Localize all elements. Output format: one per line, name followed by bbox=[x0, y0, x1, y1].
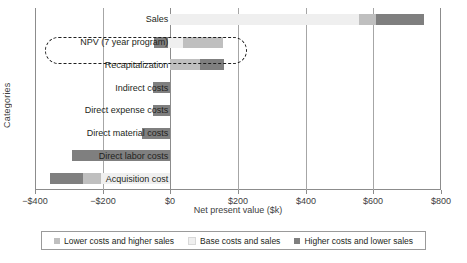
category-label: Sales bbox=[146, 14, 169, 24]
x-axis-title: Net present value ($k) bbox=[35, 205, 441, 215]
bar-segment[interactable] bbox=[183, 37, 224, 48]
bar-row[interactable] bbox=[35, 14, 441, 25]
bar-segment[interactable] bbox=[170, 59, 200, 70]
legend-swatch-icon bbox=[294, 238, 300, 244]
x-tick-label--400: −$400 bbox=[22, 196, 47, 206]
x-tick-label-200: $200 bbox=[228, 196, 248, 206]
legend-label: Higher costs and lower sales bbox=[304, 236, 413, 246]
bar-segment[interactable] bbox=[168, 37, 183, 48]
category-label: Recapitalization bbox=[105, 60, 169, 70]
bar-segment[interactable] bbox=[376, 14, 424, 25]
y-axis-title: Categories bbox=[2, 70, 18, 140]
x-tick-200 bbox=[238, 190, 239, 194]
legend-entry[interactable]: Base costs and sales bbox=[188, 236, 280, 246]
bar-segment[interactable] bbox=[83, 173, 101, 184]
x-tick-label-400: $400 bbox=[296, 196, 316, 206]
x-tick--400 bbox=[35, 190, 36, 194]
category-label: Indirect costs bbox=[115, 83, 168, 93]
bar-segment[interactable] bbox=[170, 14, 359, 25]
gridline-600 bbox=[373, 8, 374, 190]
gridline-200 bbox=[238, 8, 239, 190]
x-tick-label-0: $0 bbox=[165, 196, 175, 206]
x-tick-800 bbox=[441, 190, 442, 194]
category-label: Direct expense costs bbox=[85, 105, 169, 115]
x-tick-600 bbox=[373, 190, 374, 194]
tornado-chart-figure: Categories Net present value ($k) SalesN… bbox=[0, 0, 467, 263]
legend-swatch-icon bbox=[54, 238, 60, 244]
zero-line bbox=[170, 8, 171, 190]
legend-entry[interactable]: Higher costs and lower sales bbox=[294, 236, 413, 246]
right-spine bbox=[440, 8, 441, 190]
x-tick-label--200: −$200 bbox=[90, 196, 115, 206]
x-tick-label-800: $800 bbox=[431, 196, 451, 206]
bar-row[interactable] bbox=[35, 59, 441, 70]
legend-swatch-icon bbox=[188, 237, 196, 245]
gridline--200 bbox=[103, 8, 104, 190]
x-tick-0 bbox=[170, 190, 171, 194]
category-label: Direct material costs bbox=[87, 128, 169, 138]
category-label: NPV (7 year program) bbox=[80, 37, 168, 47]
x-tick-400 bbox=[306, 190, 307, 194]
chart-legend: Lower costs and higher salesBase costs a… bbox=[41, 231, 426, 250]
legend-label: Lower costs and higher sales bbox=[64, 236, 174, 246]
legend-label: Base costs and sales bbox=[200, 236, 280, 246]
x-tick-label-600: $600 bbox=[363, 196, 383, 206]
category-label: Acquisition cost bbox=[106, 174, 169, 184]
bar-row[interactable] bbox=[35, 173, 441, 184]
bar-segment[interactable] bbox=[359, 14, 376, 25]
x-tick--200 bbox=[103, 190, 104, 194]
plot-area: SalesNPV (7 year program)Recapitalizatio… bbox=[35, 8, 441, 190]
category-label: Direct labor costs bbox=[99, 151, 169, 161]
legend-entry[interactable]: Lower costs and higher sales bbox=[54, 236, 174, 246]
bar-segment[interactable] bbox=[50, 173, 84, 184]
bar-row[interactable] bbox=[35, 150, 441, 161]
bar-row[interactable] bbox=[35, 82, 441, 93]
y-axis-line bbox=[35, 8, 36, 190]
gridline-400 bbox=[306, 8, 307, 190]
bar-segment[interactable] bbox=[200, 59, 224, 70]
